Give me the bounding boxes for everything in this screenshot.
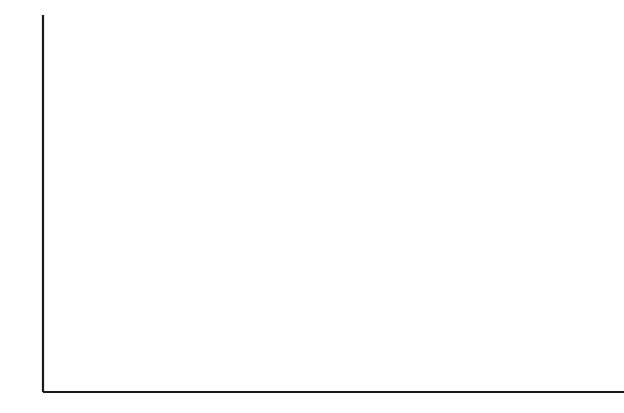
population-projection-chart <box>0 0 624 413</box>
figure-container <box>0 0 624 413</box>
y-axis-label <box>28 40 56 330</box>
